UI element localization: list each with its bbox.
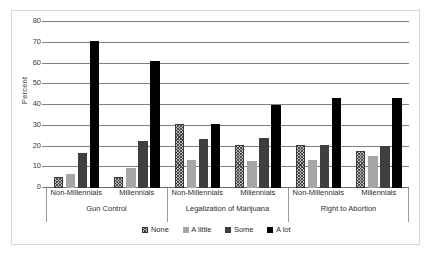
y-tick-label-70: 70 xyxy=(33,38,41,46)
category-tick xyxy=(288,188,289,222)
bar xyxy=(211,124,220,188)
category-sub-label: Millennials xyxy=(349,189,410,197)
category-axis: Non-MillennialsMillennialsGun ControlNon… xyxy=(46,188,409,222)
y-tick-label-20: 20 xyxy=(33,142,41,150)
legend-swatch-icon xyxy=(142,227,148,233)
bar xyxy=(78,153,87,188)
category-sub-label: Millennials xyxy=(228,189,289,197)
bar xyxy=(235,145,244,188)
legend-item[interactable]: A lot xyxy=(267,226,290,234)
y-tick-label-40: 40 xyxy=(33,100,41,108)
legend-swatch-icon xyxy=(183,227,189,233)
category-group-label: Gun Control xyxy=(46,205,167,213)
bar xyxy=(66,174,75,188)
y-tick-label-30: 30 xyxy=(33,121,41,129)
bar xyxy=(175,124,184,188)
bar xyxy=(199,139,208,188)
bar xyxy=(392,98,401,188)
category-sub-label: Non-Millennials xyxy=(46,189,107,197)
bar xyxy=(150,61,159,188)
legend-item[interactable]: None xyxy=(142,226,168,234)
y-tick-label-50: 50 xyxy=(33,80,41,88)
bars-layer xyxy=(46,22,409,188)
bar xyxy=(320,145,329,188)
category-group-label: Legalization of Marijuana xyxy=(167,205,288,213)
category-sub-label: Non-Millennials xyxy=(288,189,349,197)
legend-swatch-icon xyxy=(225,227,231,233)
bar xyxy=(126,168,135,188)
category-tick xyxy=(46,188,47,222)
legend-label: A little xyxy=(191,226,211,234)
y-axis-title: Percent xyxy=(20,77,29,104)
bar xyxy=(138,141,147,188)
legend-label: None xyxy=(151,226,169,234)
category-sub-label: Non-Millennials xyxy=(167,189,228,197)
bar xyxy=(380,146,389,188)
y-tick-label-80: 80 xyxy=(33,17,41,25)
bar xyxy=(356,151,365,188)
chart-root: Percent 01020304050607080 Non-Millennial… xyxy=(0,0,433,261)
category-sub-label: Millennials xyxy=(107,189,168,197)
bar xyxy=(54,177,63,188)
bar xyxy=(271,105,280,188)
chart-legend: NoneA littleSomeA lot xyxy=(0,226,433,234)
bar xyxy=(187,160,196,188)
category-tick xyxy=(167,188,168,222)
legend-swatch-icon xyxy=(267,227,273,233)
y-tick-label-60: 60 xyxy=(33,59,41,67)
bar xyxy=(247,161,256,188)
y-tick-label-0: 0 xyxy=(37,183,41,191)
legend-item[interactable]: Some xyxy=(225,226,253,234)
bar xyxy=(308,160,317,188)
plot-area: 01020304050607080 xyxy=(46,22,409,188)
category-group-label: Right to Abortion xyxy=(288,205,409,213)
bar xyxy=(332,98,341,188)
bar xyxy=(114,177,123,188)
legend-label: A lot xyxy=(276,226,291,234)
bar xyxy=(259,138,268,188)
bar xyxy=(368,156,377,188)
legend-item[interactable]: A little xyxy=(183,226,212,234)
bar xyxy=(90,41,99,188)
y-tick-label-10: 10 xyxy=(33,163,41,171)
legend-label: Some xyxy=(234,226,254,234)
category-tick xyxy=(408,188,409,222)
bar xyxy=(296,145,305,188)
